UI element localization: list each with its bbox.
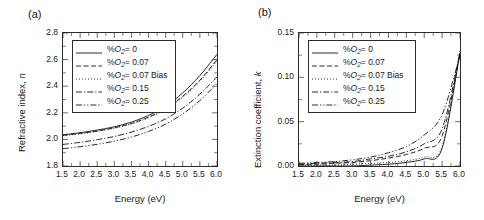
y-tick-label: 2.4 — [28, 80, 58, 90]
x-tick-label: 6.0 — [205, 169, 227, 179]
legend-label: %O2= 0 — [343, 44, 373, 57]
legend-item: %O2= 0.25 — [76, 96, 171, 109]
legend-item: %O2= 0.15 — [312, 83, 411, 96]
x-tick-label: 6.0 — [448, 169, 470, 179]
panel-b-extinction-coefficient: (b) Extinction coefficient, k Energy (eV… — [242, 0, 484, 220]
panel-a-y-axis-label: Refractive index, n — [16, 73, 27, 152]
panel-a-label: (a) — [28, 8, 41, 20]
panel-b-label: (b) — [258, 6, 271, 18]
panel-a-legend: %O2= 0%O2= 0.07%O2= 0.07 Bias%O2= 0.15%O… — [72, 40, 176, 113]
legend-key-dotted — [312, 76, 338, 77]
legend-item: %O2= 0.25 — [312, 96, 411, 109]
panel-a-x-axis-label: Energy (eV) — [62, 193, 218, 204]
legend-key-solid — [312, 50, 338, 51]
legend-label: %O2= 0.07 — [343, 57, 385, 70]
y-tick-label: 2.0 — [28, 133, 58, 143]
legend-item: %O2= 0 — [76, 44, 171, 57]
figure-optical-constants: (a) Refractive index, n Energy (eV) 1.82… — [0, 0, 484, 220]
legend-key-dotted — [76, 76, 102, 77]
legend-label: %O2= 0.07 Bias — [107, 70, 168, 83]
legend-item: %O2= 0.07 — [76, 57, 171, 70]
legend-label: %O2= 0.15 — [343, 83, 385, 96]
legend-key-dashed — [312, 63, 338, 64]
legend-key-solid — [76, 50, 102, 51]
panel-b-legend: %O2= 0%O2= 0.07%O2= 0.07 Bias%O2= 0.15%O… — [308, 40, 416, 113]
y-tick-label: 2.6 — [28, 54, 58, 64]
legend-item: %O2= 0.07 — [312, 57, 411, 70]
legend-item: %O2= 0.07 Bias — [76, 70, 171, 83]
panel-a-refractive-index: (a) Refractive index, n Energy (eV) 1.82… — [0, 0, 242, 220]
y-tick-label: 0.15 — [264, 27, 294, 37]
legend-key-dashdotdot — [312, 102, 338, 103]
y-tick-label: 2.2 — [28, 107, 58, 117]
legend-label: %O2= 0.15 — [107, 83, 149, 96]
legend-item: %O2= 0 — [312, 44, 411, 57]
panel-b-y-axis-label: Extinction coefficient, k — [252, 72, 263, 168]
legend-item: %O2= 0.07 Bias — [312, 70, 411, 83]
legend-label: %O2= 0.07 — [107, 57, 149, 70]
panel-b-x-axis-label: Energy (eV) — [298, 193, 461, 204]
legend-label: %O2= 0 — [107, 44, 137, 57]
y-tick-label: 2.8 — [28, 27, 58, 37]
legend-key-dashdot — [312, 89, 338, 90]
y-tick-label: 0.05 — [264, 116, 294, 126]
legend-key-dashdot — [76, 89, 102, 90]
legend-key-dashdotdot — [76, 102, 102, 103]
legend-label: %O2= 0.07 Bias — [343, 70, 404, 83]
y-tick-label: 0.10 — [264, 71, 294, 81]
legend-item: %O2= 0.15 — [76, 83, 171, 96]
legend-label: %O2= 0.25 — [343, 96, 385, 109]
legend-key-dashed — [76, 63, 102, 64]
legend-label: %O2= 0.25 — [107, 96, 149, 109]
